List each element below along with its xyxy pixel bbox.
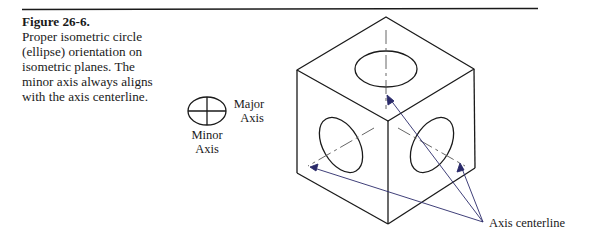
minor-axis-label: Minor Axis [186, 128, 228, 156]
header-rule [22, 9, 538, 10]
figure-number: Figure 26-6. [22, 14, 162, 29]
figure-caption: Figure 26-6. Proper isometric circle (el… [22, 14, 162, 104]
legend-ellipse [188, 97, 226, 125]
figure-caption-text: Proper isometric circle (ellipse) orient… [22, 29, 162, 104]
major-axis-label: Major Axis [229, 97, 269, 125]
right-face-ellipse [401, 110, 462, 180]
axis-centerline-label: Axis centerline [489, 216, 565, 230]
cube-ellipses [310, 51, 462, 180]
leader-lines [310, 95, 483, 222]
